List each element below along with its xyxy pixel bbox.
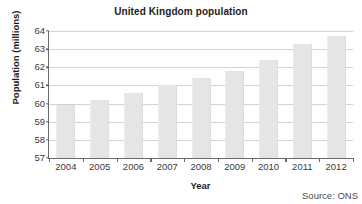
x-tick-mark (150, 158, 151, 162)
y-tick-label: 62 (34, 63, 45, 73)
x-tick-label: 2011 (292, 162, 312, 172)
bars-group (49, 31, 353, 158)
source-note: Source: ONS (302, 190, 358, 201)
x-tick-mark (184, 158, 185, 162)
bar (293, 44, 312, 158)
x-tick-label: 2005 (89, 162, 110, 172)
x-tick-label: 2007 (157, 162, 178, 172)
bar (90, 100, 109, 158)
x-tick-mark (218, 158, 219, 162)
x-tick-mark (49, 158, 50, 162)
y-tick-label: 61 (34, 81, 45, 91)
chart-title: United Kingdom population (0, 6, 362, 17)
x-tick-label: 2008 (190, 162, 211, 172)
x-tick-label: 2012 (326, 162, 347, 172)
y-tick-label: 57 (34, 153, 45, 163)
bar (56, 105, 75, 158)
x-tick-mark (117, 158, 118, 162)
y-tick-label: 60 (34, 99, 45, 109)
bar (327, 36, 346, 158)
x-tick-mark (353, 158, 354, 162)
plot-area: 5758596061626364 20042005200620072008200… (48, 31, 353, 159)
bar (259, 60, 278, 158)
x-tick-label: 2009 (224, 162, 245, 172)
chart-container: United Kingdom population Population (mi… (0, 0, 362, 204)
x-tick-mark (252, 158, 253, 162)
x-tick-label: 2006 (123, 162, 144, 172)
y-tick-label: 59 (34, 117, 45, 127)
x-tick-label: 2004 (55, 162, 76, 172)
x-tick-mark (319, 158, 320, 162)
x-tick-mark (83, 158, 84, 162)
bar (124, 93, 143, 158)
x-tick-label: 2010 (258, 162, 279, 172)
x-tick-mark (285, 158, 286, 162)
y-axis-title: Population (millions) (10, 0, 21, 117)
y-tick-label: 64 (34, 26, 45, 36)
bar (225, 71, 244, 158)
y-tick-label: 58 (34, 135, 45, 145)
y-tick-label: 63 (34, 44, 45, 54)
bar (192, 78, 211, 158)
bar (158, 85, 177, 158)
